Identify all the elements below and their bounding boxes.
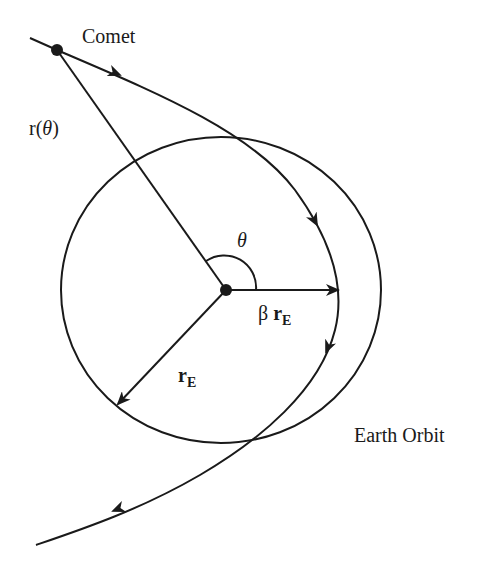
comet-label: Comet	[82, 26, 135, 46]
rE-sub: E	[187, 375, 196, 390]
r-theta-var: θ	[42, 117, 52, 139]
diagram-canvas	[0, 0, 498, 573]
beta-rE-label: β rE	[258, 303, 291, 323]
trajectory-arrow-4	[113, 505, 128, 511]
sun-dot	[220, 284, 232, 296]
comet-trajectory	[30, 38, 339, 545]
beta-r: r	[273, 302, 282, 324]
rE-r: r	[178, 364, 187, 386]
r-theta-prefix: r(	[29, 117, 42, 139]
earth-orbit-label: Earth Orbit	[354, 425, 445, 445]
beta-sub: E	[282, 313, 291, 328]
rE-arrow	[118, 290, 226, 404]
rE-label: rE	[178, 365, 196, 385]
beta-symbol: β	[258, 302, 268, 324]
theta-label: θ	[237, 230, 247, 250]
comet-dot	[51, 44, 63, 56]
r-theta-suffix: )	[52, 117, 59, 139]
r-theta-label: r(θ)	[29, 118, 59, 138]
